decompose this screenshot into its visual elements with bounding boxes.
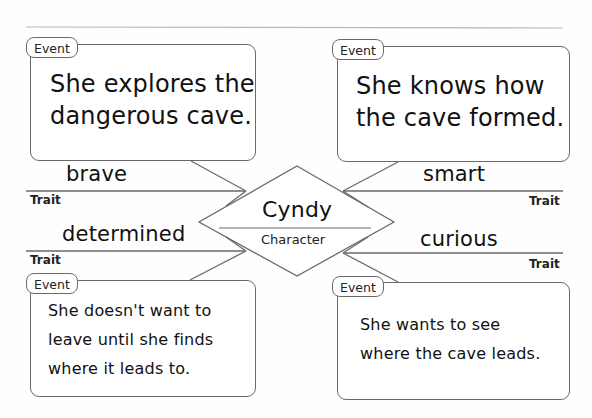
- trait-label-bottom-right: Trait: [529, 257, 560, 271]
- event-label-top-right: Event: [332, 39, 384, 60]
- event-text-bottom-left: She doesn't want to leave until she find…: [48, 296, 213, 383]
- event-text-top-left: She explores the dangerous cave.: [50, 68, 255, 132]
- event-label-top-left: Event: [26, 37, 78, 58]
- trait-label-top-left: Trait: [30, 193, 61, 207]
- trait-word-bottom-right: curious: [420, 227, 498, 251]
- trait-label-top-right: Trait: [529, 194, 560, 208]
- character-name: Cyndy: [262, 197, 332, 222]
- trait-word-top-left: brave: [66, 162, 127, 186]
- trait-word-bottom-left: determined: [62, 222, 186, 246]
- trait-label-bottom-left: Trait: [30, 253, 61, 267]
- character-traits-diagram: Event She explores the dangerous cave. E…: [0, 0, 592, 418]
- character-label: Character: [261, 232, 325, 247]
- event-label-bottom-left: Event: [26, 273, 78, 294]
- event-label-bottom-right: Event: [332, 276, 384, 297]
- trait-word-top-right: smart: [423, 162, 485, 186]
- event-text-bottom-right: She wants to see where the cave leads.: [360, 310, 540, 368]
- event-text-top-right: She knows how the cave formed.: [356, 70, 564, 134]
